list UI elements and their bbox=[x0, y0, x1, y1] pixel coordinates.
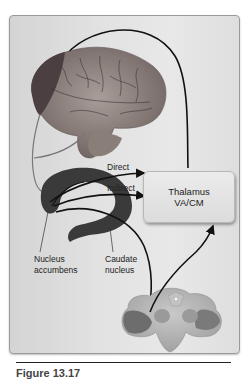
figure-panel: Direct Indirect Thalamus VA/CM Nucleus a… bbox=[9, 15, 240, 354]
nucleus-accumbens-label-line1: Nucleus bbox=[34, 254, 65, 264]
brain-cortex-image bbox=[31, 47, 166, 158]
caudate-nucleus-label-line2: nucleus bbox=[105, 265, 134, 275]
figure-caption: Figure 13.17 bbox=[16, 367, 80, 379]
indirect-label: Indirect bbox=[107, 183, 135, 193]
brainstem-midbrain-image bbox=[122, 288, 221, 352]
caption-rule bbox=[16, 362, 231, 363]
thalamus-label: Thalamus bbox=[168, 186, 210, 197]
nucleus-accumbens-label-line2: accumbens bbox=[34, 265, 77, 275]
cortex-to-striatum-pathway-2 bbox=[34, 134, 85, 158]
thalamus-subtitle: VA/CM bbox=[174, 197, 203, 208]
caudate-nucleus-label-line1: Caudate bbox=[105, 254, 137, 264]
striatum-shape bbox=[41, 168, 132, 242]
thalamus-box: Thalamus VA/CM bbox=[143, 171, 235, 223]
direct-label: Direct bbox=[107, 162, 129, 172]
